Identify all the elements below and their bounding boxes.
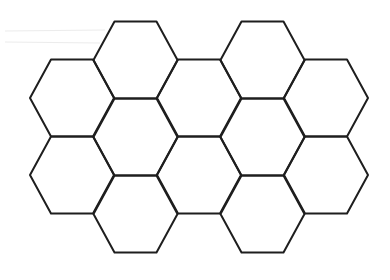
hexagon-cells [30,22,368,253]
hexagon-cell-c3-r0 [221,22,305,99]
hex-grid-diagram [0,0,390,280]
hexagon-cell-c3-r2 [221,176,305,253]
hexagon-cell-c2-r1 [157,137,241,214]
hexagon-cell-c1-r0 [94,22,178,99]
hexagon-cell-c4-r0 [284,60,368,137]
hexagon-cell-c4-r1 [284,137,368,214]
hexagon-cell-c1-r2 [94,176,178,253]
hexagon-cell-c1-r1 [94,99,178,176]
hexagon-cell-c0-r0 [30,60,114,137]
hexagon-cell-c2-r0 [157,60,241,137]
hexagon-cell-c0-r1 [30,137,114,214]
hexagon-cell-c3-r1 [221,99,305,176]
paper-texture [5,30,105,43]
